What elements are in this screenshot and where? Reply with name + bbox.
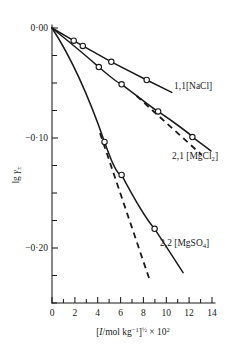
y-axis-title-lead: lg [11, 174, 21, 184]
svg-text:lg γ±: lg γ± [11, 166, 22, 184]
curve-labels: 1,1[NaCl] 2,1 [MgCl2] 2,2 [MgSO4] [160, 81, 218, 249]
activity-coefficient-figure: 0·00 −0·10 −0·20 lg γ± [0, 0, 237, 350]
marker-mgso4 [102, 139, 107, 144]
curve-label-nacl-formula: NaCl [189, 81, 209, 91]
curve-label-nacl: 1,1[NaCl] [174, 81, 212, 91]
y-tick-label-minus-0-10: −0·10 [25, 133, 48, 143]
curve-label-mgso4: 2,2 [MgSO4] [160, 238, 209, 249]
x-tick-label-14: 14 [207, 308, 217, 318]
x-axis-tick-labels: 0 2 4 6 8 10 12 14 [50, 308, 217, 318]
marker-mgso4 [152, 226, 157, 231]
limiting-law-lines [100, 96, 202, 282]
x-tick-label-12: 12 [184, 308, 194, 318]
curve-label-mgcl2-suffix: ] [215, 151, 218, 161]
curve-label-mgcl2: 2,1 [MgCl2] [172, 151, 218, 162]
x-axis-ticks [52, 297, 212, 303]
limiting-law-line-2-1 [137, 96, 202, 155]
curve-label-nacl-suffix: ] [209, 81, 212, 91]
x-axis-title-units: /mol kg [103, 327, 133, 337]
marker-nacl [144, 77, 149, 82]
y-axis-tick-labels: 0·00 −0·10 −0·20 [25, 23, 48, 253]
x-tick-label-0: 0 [50, 308, 55, 318]
marker-mgso4 [119, 172, 124, 177]
x-tick-label-2: 2 [73, 308, 78, 318]
marker-mgcl2 [96, 64, 101, 69]
x-tick-label-4: 4 [95, 308, 100, 318]
curve-label-nacl-prefix: 1,1[ [174, 81, 189, 91]
limiting-law-line-2-2 [100, 133, 150, 282]
x-axis-title-exponent-minus-one: −1 [132, 326, 139, 333]
y-axis-title: lg γ± [11, 166, 22, 184]
x-axis-title-times-ten: × 10 [147, 327, 167, 337]
marker-nacl [71, 38, 76, 43]
x-tick-label-10: 10 [162, 308, 172, 318]
curve-label-mgso4-prefix: 2,2 [MgSO [160, 238, 203, 248]
y-axis-ticks [52, 28, 58, 303]
y-tick-label-minus-0-20: −0·20 [25, 243, 48, 253]
marker-nacl [109, 59, 114, 64]
data-markers [71, 38, 195, 232]
y-axis-title-subscript: ± [15, 166, 22, 170]
plot-canvas: 0·00 −0·10 −0·20 lg γ± [0, 0, 237, 350]
y-tick-label-0: 0·00 [31, 23, 49, 33]
marker-mgcl2 [119, 82, 124, 87]
marker-mgcl2 [155, 109, 160, 114]
x-tick-label-8: 8 [141, 308, 146, 318]
axes-group [52, 25, 215, 303]
curve-label-mgso4-suffix: ] [206, 238, 209, 248]
curve-label-mgcl2-prefix: 2,1 [MgCl [172, 151, 212, 161]
x-axis-title-exponent-two: 2 [167, 326, 170, 333]
marker-nacl [80, 43, 85, 48]
x-axis-title: [I/mol kg−1]½ × 102 [96, 326, 170, 337]
x-tick-label-6: 6 [118, 308, 123, 318]
marker-mgcl2 [190, 134, 195, 139]
